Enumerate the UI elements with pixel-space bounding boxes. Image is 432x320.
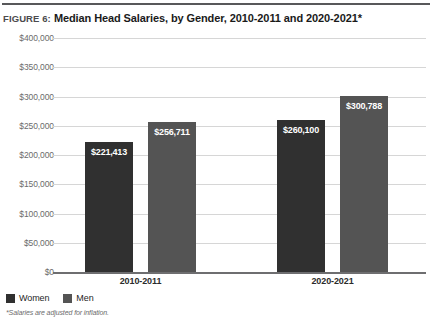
page-title: Median Head Salaries, by Gender, 2010-20… <box>54 12 362 24</box>
bar-men-2010-2011: $256,711 <box>148 122 196 272</box>
bar-men-2020-2021: $300,788 <box>340 96 388 272</box>
legend-item-men[interactable]: Men <box>63 293 93 303</box>
x-axis-labels: 2010-20112020-2021 <box>0 276 432 290</box>
bar-value-label: $256,711 <box>148 127 196 137</box>
bar-value-label: $260,100 <box>277 125 325 135</box>
legend-label: Men <box>76 293 93 303</box>
bar-value-label: $221,413 <box>85 147 133 157</box>
bar-women-2020-2021: $260,100 <box>277 120 325 272</box>
x-axis-tick-label: 2020-2021 <box>277 276 388 286</box>
header-divider <box>2 3 430 5</box>
figure-number: FIGURE 6: <box>3 13 51 24</box>
figure-title-row: FIGURE 6:Median Head Salaries, by Gender… <box>3 9 431 25</box>
bar-value-label: $300,788 <box>340 101 388 111</box>
legend-item-women[interactable]: Women <box>6 293 49 303</box>
bar-women-2010-2011: $221,413 <box>85 142 133 272</box>
figure-container: FIGURE 6:Median Head Salaries, by Gender… <box>0 0 432 320</box>
legend-swatch-icon <box>6 294 15 303</box>
figure-footnote: *Salaries are adjusted for inflation. <box>6 309 109 316</box>
legend-label: Women <box>19 293 49 303</box>
chart-bars: $221,413$256,711$260,100$300,788 <box>0 36 432 274</box>
legend-swatch-icon <box>63 294 72 303</box>
x-axis-tick-label: 2010-2011 <box>85 276 196 286</box>
chart-legend: WomenMen <box>6 292 94 304</box>
chart-plot-area: $0$50,000$100,000$150,000$200,000$250,00… <box>0 36 432 274</box>
